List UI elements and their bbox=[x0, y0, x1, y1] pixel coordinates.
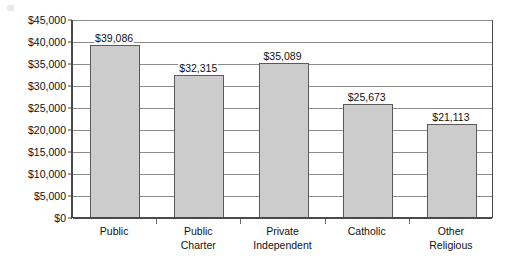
bar bbox=[427, 124, 477, 217]
y-axis-tick bbox=[68, 42, 72, 43]
bar-value-label: $35,089 bbox=[263, 50, 303, 62]
x-axis-label-line1: Private bbox=[266, 225, 299, 237]
x-axis-category-label: OtherReligious bbox=[429, 224, 472, 252]
gridline bbox=[73, 218, 492, 219]
gridline bbox=[73, 20, 492, 21]
y-axis-tick bbox=[68, 64, 72, 65]
bar-value-label: $25,673 bbox=[347, 91, 387, 103]
y-axis-tick-label: $35,000 bbox=[0, 58, 66, 70]
y-axis-tick-label: $20,000 bbox=[0, 124, 66, 136]
x-axis-boundary-tick bbox=[325, 219, 326, 224]
x-axis-category-label: Public bbox=[100, 224, 129, 238]
y-axis-tick bbox=[68, 20, 72, 21]
y-axis-tick bbox=[68, 108, 72, 109]
y-axis-tick bbox=[68, 218, 72, 219]
y-axis-tick bbox=[68, 86, 72, 87]
bar-value-label: $39,086 bbox=[94, 32, 134, 44]
y-axis-tick-label: $15,000 bbox=[0, 146, 66, 158]
x-axis-boundary-tick bbox=[240, 219, 241, 224]
y-axis-tick-label: $25,000 bbox=[0, 102, 66, 114]
y-axis-tick bbox=[68, 174, 72, 175]
y-axis-tick-label: $10,000 bbox=[0, 168, 66, 180]
x-axis-category-label: PublicCharter bbox=[181, 224, 216, 252]
bar bbox=[259, 63, 309, 217]
y-axis-tick-label: $45,000 bbox=[0, 14, 66, 26]
x-axis-label-line1: Other bbox=[438, 225, 464, 237]
bar bbox=[90, 45, 140, 217]
gridline bbox=[73, 42, 492, 43]
y-axis-tick bbox=[68, 196, 72, 197]
scan-artifact bbox=[7, 5, 14, 11]
y-axis-tick-label: $0 bbox=[0, 212, 66, 224]
bar bbox=[174, 75, 224, 217]
bar bbox=[343, 104, 393, 217]
y-axis-tick bbox=[68, 130, 72, 131]
y-axis-tick bbox=[68, 152, 72, 153]
x-axis-label-line1: Public bbox=[184, 225, 213, 237]
x-axis-category-label: PrivateIndependent bbox=[253, 224, 311, 252]
x-axis-boundary-tick bbox=[409, 219, 410, 224]
x-axis-label-line2: Religious bbox=[429, 238, 472, 252]
y-axis-tick-label: $30,000 bbox=[0, 80, 66, 92]
bar-chart: $0$5,000$10,000$15,000$20,000$25,000$30,… bbox=[0, 0, 506, 256]
bar-value-label: $21,113 bbox=[431, 111, 470, 123]
x-axis-boundary-tick bbox=[156, 219, 157, 224]
x-axis-label-line1: Catholic bbox=[348, 225, 386, 237]
y-axis-tick-label: $40,000 bbox=[0, 36, 66, 48]
bar-value-label: $32,315 bbox=[178, 62, 218, 74]
x-axis-category-label: Catholic bbox=[348, 224, 386, 238]
x-axis-label-line2: Charter bbox=[181, 238, 216, 252]
y-axis-tick-label: $5,000 bbox=[0, 190, 66, 202]
x-axis-label-line1: Public bbox=[100, 225, 129, 237]
x-axis-label-line2: Independent bbox=[253, 238, 311, 252]
